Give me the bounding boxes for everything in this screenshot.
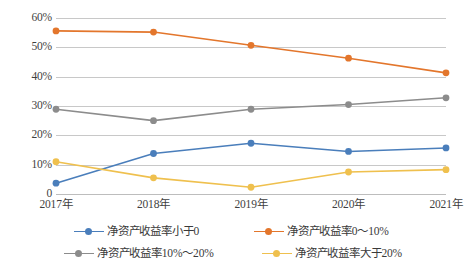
y-axis: 010%20%30%40%50%60% (0, 18, 52, 194)
series-layer (56, 18, 446, 194)
data-point[interactable] (150, 29, 157, 36)
x-tick-label: 2018年 (137, 198, 170, 211)
legend-item-series-3[interactable]: 净资产收益率大于20% (248, 242, 432, 264)
legend-marker-icon (64, 248, 94, 259)
data-point[interactable] (53, 28, 60, 35)
data-point[interactable] (248, 106, 255, 113)
data-point[interactable] (443, 166, 450, 173)
data-point[interactable] (150, 150, 157, 157)
y-tick-label: 50% (4, 41, 52, 52)
data-point[interactable] (345, 101, 352, 108)
data-point[interactable] (443, 94, 450, 101)
legend-row: 净资产收益率小于0 净资产收益率0～10% (52, 220, 432, 242)
data-point[interactable] (53, 158, 60, 165)
series-line (56, 31, 446, 73)
y-tick-label: 40% (4, 71, 52, 82)
legend-label: 净资产收益率0～10% (287, 225, 389, 238)
data-point[interactable] (443, 145, 450, 152)
legend-item-series-0[interactable]: 净资产收益率小于0 (52, 220, 248, 242)
y-tick-label: 10% (4, 159, 52, 170)
data-point[interactable] (443, 69, 450, 76)
x-tick-label: 2019年 (234, 198, 267, 211)
data-point[interactable] (150, 174, 157, 181)
y-tick-label: 30% (4, 100, 52, 111)
legend-marker-icon (262, 248, 292, 259)
legend-label: 净资产收益率大于20% (295, 247, 402, 260)
data-point[interactable] (345, 55, 352, 62)
x-axis: 2017年2018年2019年2020年2021年 (56, 198, 446, 216)
chart-legend: 净资产收益率小于0 净资产收益率0～10% 净资产收益率10%～20% (52, 220, 432, 268)
legend-item-series-1[interactable]: 净资产收益率0～10% (248, 220, 432, 242)
legend-marker-icon (74, 226, 104, 237)
data-point[interactable] (248, 184, 255, 191)
data-point[interactable] (248, 42, 255, 49)
y-tick-label: 60% (4, 12, 52, 23)
gridline (56, 194, 446, 195)
legend-label: 净资产收益率10%～20% (97, 247, 214, 260)
x-tick-label: 2020年 (332, 198, 365, 211)
plot-area (56, 18, 446, 194)
data-point[interactable] (345, 169, 352, 176)
x-tick-label: 2021年 (429, 198, 462, 211)
data-point[interactable] (53, 180, 60, 187)
legend-marker-icon (254, 226, 284, 237)
data-point[interactable] (345, 148, 352, 155)
legend-item-series-2[interactable]: 净资产收益率10%～20% (52, 242, 248, 264)
data-point[interactable] (248, 140, 255, 147)
data-point[interactable] (150, 117, 157, 124)
x-tick-label: 2017年 (39, 198, 72, 211)
y-tick-label: 20% (4, 129, 52, 140)
series-line (56, 143, 446, 183)
data-point[interactable] (53, 106, 60, 113)
line-chart: 010%20%30%40%50%60% 2017年2018年2019年2020年… (0, 0, 465, 274)
legend-label: 净资产收益率小于0 (107, 225, 199, 238)
legend-row: 净资产收益率10%～20% 净资产收益率大于20% (52, 242, 432, 264)
